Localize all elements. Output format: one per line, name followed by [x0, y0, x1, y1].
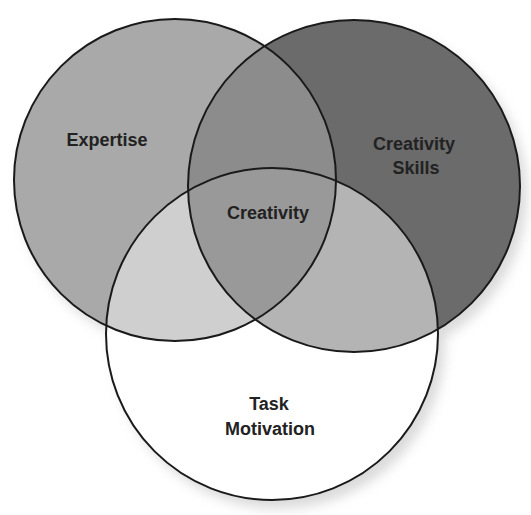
label-expertise: Expertise: [66, 130, 147, 150]
label-task-line1: Task: [249, 394, 290, 414]
label-creativity-skills-line2: Skills: [392, 158, 439, 178]
label-task-line2: Motivation: [225, 419, 315, 439]
label-creativity-skills-line1: Creativity: [373, 134, 455, 154]
label-creativity-center: Creativity: [227, 203, 309, 223]
creativity-venn-diagram: Expertise Creativity Skills Creativity T…: [0, 0, 531, 515]
